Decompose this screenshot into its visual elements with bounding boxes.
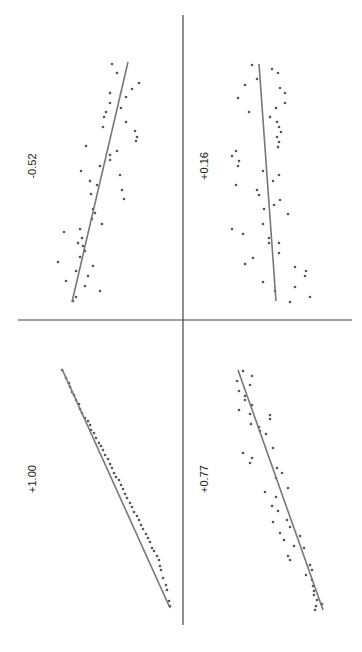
data-point xyxy=(102,126,105,129)
data-point xyxy=(277,72,280,75)
data-point xyxy=(283,539,286,542)
data-point xyxy=(279,532,282,535)
data-point xyxy=(280,131,283,134)
data-point xyxy=(237,97,240,100)
data-point xyxy=(89,180,92,183)
data-point xyxy=(269,116,272,119)
data-point xyxy=(57,261,60,264)
data-point xyxy=(303,547,306,550)
data-point xyxy=(142,528,145,531)
scatter-panel-top-right xyxy=(231,64,312,304)
data-point xyxy=(120,107,123,110)
data-point xyxy=(271,68,274,71)
data-point xyxy=(98,442,101,445)
regression-line xyxy=(62,369,170,608)
data-point xyxy=(99,165,102,168)
data-point xyxy=(149,541,152,544)
data-point xyxy=(304,275,307,278)
data-point xyxy=(105,111,108,114)
data-point xyxy=(160,569,163,572)
data-point xyxy=(100,445,103,448)
correlation-label: +0.16 xyxy=(198,152,210,180)
data-point xyxy=(124,493,127,496)
data-point xyxy=(75,270,78,273)
data-point xyxy=(158,559,161,562)
data-point xyxy=(136,515,139,518)
data-point xyxy=(314,609,317,612)
data-point xyxy=(87,420,90,423)
data-point xyxy=(63,231,66,234)
regression-line xyxy=(238,370,323,610)
data-point xyxy=(119,174,122,177)
data-point xyxy=(77,242,80,245)
data-point xyxy=(131,88,134,91)
data-point xyxy=(252,257,255,260)
data-point xyxy=(305,574,308,577)
correlation-label: +0.77 xyxy=(198,465,210,493)
data-point xyxy=(275,107,278,110)
data-point xyxy=(80,170,83,173)
data-point xyxy=(103,116,106,119)
data-point xyxy=(109,92,112,95)
data-point xyxy=(272,180,275,183)
data-point xyxy=(109,463,112,466)
data-point xyxy=(231,155,234,158)
data-point xyxy=(278,126,281,129)
data-point xyxy=(116,72,119,75)
data-point xyxy=(96,184,99,187)
data-point xyxy=(258,194,261,197)
data-point xyxy=(278,141,281,144)
data-point xyxy=(85,145,88,148)
data-point xyxy=(101,223,104,226)
data-point xyxy=(262,170,265,173)
data-point xyxy=(269,414,272,417)
data-point xyxy=(82,245,85,248)
data-point xyxy=(242,233,245,236)
data-point xyxy=(275,496,278,499)
data-point xyxy=(109,159,112,162)
data-point xyxy=(315,605,318,608)
data-point xyxy=(294,266,297,269)
data-point xyxy=(134,130,137,133)
data-point xyxy=(276,136,279,139)
data-point xyxy=(249,462,252,465)
data-point xyxy=(94,212,97,215)
data-point xyxy=(281,472,284,475)
data-point xyxy=(249,384,252,387)
data-point xyxy=(264,491,267,494)
data-point xyxy=(273,204,276,207)
data-point xyxy=(256,189,259,192)
scatter-panel-top-left xyxy=(57,62,141,302)
data-point xyxy=(238,160,241,163)
data-point xyxy=(162,577,165,580)
data-point xyxy=(235,184,238,187)
data-point xyxy=(90,193,93,196)
data-point xyxy=(263,208,266,211)
data-point xyxy=(251,64,254,67)
data-point xyxy=(277,146,280,149)
data-point xyxy=(93,432,96,435)
data-point xyxy=(147,537,150,540)
data-point xyxy=(294,286,297,289)
data-point xyxy=(299,535,302,538)
data-point xyxy=(269,418,272,421)
data-point xyxy=(115,476,118,479)
data-point xyxy=(156,555,159,558)
data-point xyxy=(235,150,238,153)
data-point xyxy=(92,265,95,268)
data-point xyxy=(65,280,68,283)
data-point xyxy=(120,484,123,487)
data-point xyxy=(121,189,124,192)
data-point xyxy=(279,199,282,202)
data-point xyxy=(286,519,289,522)
data-point xyxy=(311,569,314,572)
data-point xyxy=(284,102,287,105)
data-point xyxy=(287,213,290,216)
data-point xyxy=(116,150,119,153)
data-point xyxy=(102,449,105,452)
data-point xyxy=(313,594,316,597)
data-point xyxy=(126,497,129,500)
data-point xyxy=(166,589,169,592)
data-point xyxy=(236,380,239,383)
data-point xyxy=(293,545,296,548)
